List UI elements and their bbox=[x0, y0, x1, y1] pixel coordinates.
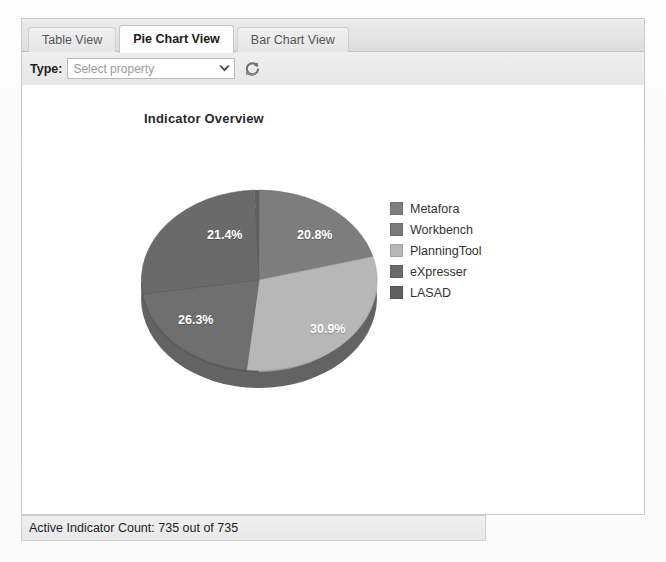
pie-chart-view-window: Table View Pie Chart View Bar Chart View… bbox=[21, 18, 645, 544]
view-tab-bar: Table View Pie Chart View Bar Chart View bbox=[21, 18, 645, 52]
tab-pie-chart-view[interactable]: Pie Chart View bbox=[119, 25, 234, 53]
tab-pie-chart-view-label: Pie Chart View bbox=[133, 32, 220, 46]
chart-toolbar: Type: Select property bbox=[21, 52, 645, 85]
legend-swatch-lasad bbox=[390, 286, 403, 299]
legend-label-lasad: LASAD bbox=[410, 286, 451, 300]
tab-bar-chart-view-label: Bar Chart View bbox=[251, 33, 335, 47]
pie-top-face bbox=[141, 190, 377, 370]
pie-slice-label-expresser: 21.4% bbox=[207, 228, 242, 242]
legend-item-metafora[interactable]: Metafora bbox=[390, 198, 540, 219]
legend-item-lasad[interactable]: LASAD bbox=[390, 282, 540, 303]
property-type-select-value: Select property bbox=[68, 62, 214, 76]
legend-label-expresser: eXpresser bbox=[410, 265, 467, 279]
legend-item-workbench[interactable]: Workbench bbox=[390, 219, 540, 240]
chart-title: Indicator Overview bbox=[144, 111, 264, 126]
pie-slice-label-workbench: 30.9% bbox=[310, 322, 345, 336]
legend-swatch-planningtool bbox=[390, 244, 403, 257]
tab-table-view[interactable]: Table View bbox=[28, 27, 116, 52]
tab-bar-chart-view[interactable]: Bar Chart View bbox=[237, 27, 349, 52]
legend-swatch-metafora bbox=[390, 202, 403, 215]
chevron-down-icon[interactable] bbox=[214, 59, 234, 78]
active-indicator-count-text: Active Indicator Count: 735 out of 735 bbox=[29, 521, 238, 535]
legend-label-planningtool: PlanningTool bbox=[410, 244, 482, 258]
status-bar: Active Indicator Count: 735 out of 735 bbox=[21, 515, 486, 541]
pie-slice-expresser bbox=[141, 190, 259, 294]
pie-slice-label-metafora: 20.8% bbox=[297, 228, 332, 242]
type-label: Type: bbox=[30, 62, 62, 76]
legend-label-workbench: Workbench bbox=[410, 223, 473, 237]
legend-item-expresser[interactable]: eXpresser bbox=[390, 261, 540, 282]
refresh-icon[interactable] bbox=[241, 58, 263, 80]
chart-legend: Metafora Workbench PlanningTool eXpresse… bbox=[390, 198, 540, 303]
pie-slice-label-planningtool: 26.3% bbox=[178, 313, 213, 327]
legend-swatch-workbench bbox=[390, 223, 403, 236]
legend-label-metafora: Metafora bbox=[410, 202, 459, 216]
pie-chart-graphic: 20.8% 30.9% 26.3% 21.4% bbox=[134, 180, 384, 400]
property-type-select[interactable]: Select property bbox=[67, 58, 235, 79]
legend-swatch-expresser bbox=[390, 265, 403, 278]
legend-item-planningtool[interactable]: PlanningTool bbox=[390, 240, 540, 261]
tab-table-view-label: Table View bbox=[42, 33, 102, 47]
pie-chart-panel: Indicator Overview bbox=[21, 85, 645, 515]
